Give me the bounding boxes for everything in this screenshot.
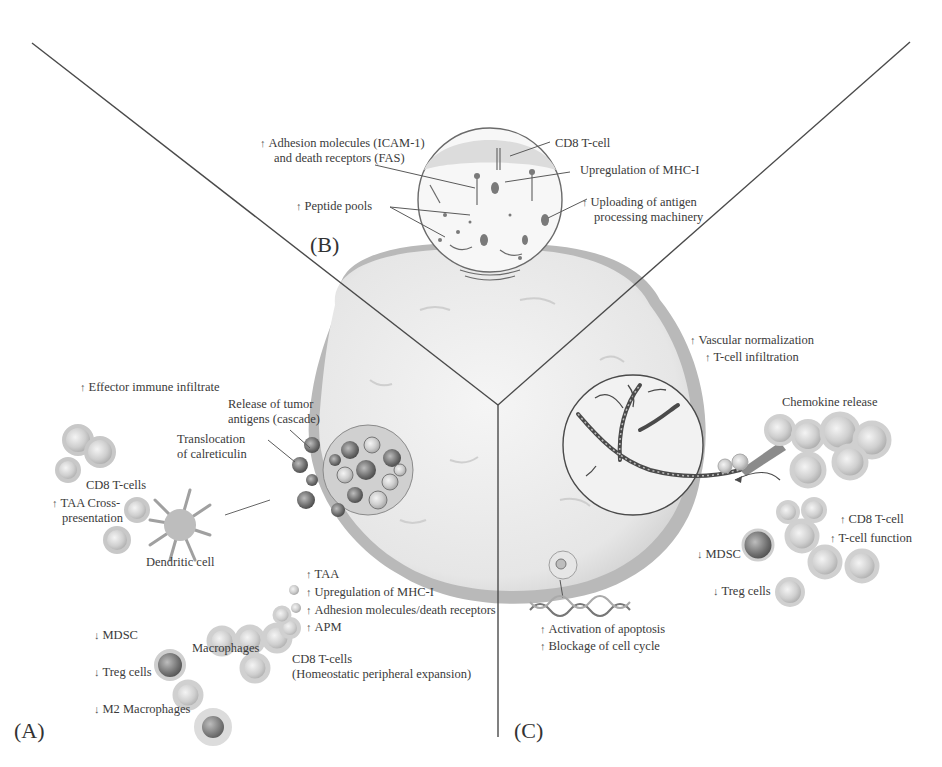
up-arrow-icon: ↑ [306, 585, 312, 600]
label-cd8-tcell-c: ↑CD8 T-cell [840, 512, 904, 527]
up-arrow-icon: ↑ [80, 380, 86, 395]
panel-label-b: (B) [310, 232, 339, 258]
label-taa-cross-presentation: ↑TAA Cross- presentation [52, 496, 123, 526]
label-dendritic-cell: Dendritic cell [146, 555, 214, 570]
up-arrow-icon: ↑ [830, 531, 836, 546]
panel-label-c: (C) [514, 718, 543, 744]
label-treg-c: ↓Treg cells [713, 584, 771, 599]
label-mdsc-c: ↓MDSC [697, 547, 741, 562]
label-tcell-infiltration: ↑T-cell infiltration [705, 350, 799, 365]
up-arrow-icon: ↑ [260, 136, 266, 151]
label-mhc-upregulation: Upregulation of MHC-I [580, 163, 699, 178]
label-peptide-pools: ↑Peptide pools [296, 199, 372, 214]
down-arrow-icon: ↓ [94, 628, 100, 643]
label-cd8-tcell: CD8 T-cell [555, 136, 610, 151]
label-vascular-normalization: ↑Vascular normalization [690, 333, 814, 348]
up-arrow-icon: ↑ [306, 620, 312, 635]
up-arrow-icon: ↑ [582, 195, 588, 210]
up-arrow-icon: ↑ [540, 639, 546, 654]
up-arrow-icon: ↑ [540, 622, 546, 637]
panel-label-a: (A) [14, 718, 45, 744]
down-arrow-icon: ↓ [94, 665, 100, 680]
tumor-cell-cluster [292, 425, 413, 517]
label-tcell-function: ↑T-cell function [830, 531, 912, 546]
down-arrow-icon: ↓ [94, 702, 100, 717]
up-arrow-icon: ↑ [52, 496, 58, 511]
label-mhc-upregulation-a: ↑Upregulation of MHC-I [306, 585, 434, 600]
magnified-vasculature [563, 375, 786, 515]
label-apm: ↑APM [306, 620, 342, 635]
figure-canvas: (B) (A) (C) ↑Adhesion molecules (ICAM-1)… [0, 0, 942, 767]
down-arrow-icon: ↓ [713, 584, 719, 599]
up-arrow-icon: ↑ [296, 199, 302, 214]
up-arrow-icon: ↑ [306, 567, 312, 582]
label-adhesion-death-receptors: ↑Adhesion molecules/death receptors [306, 603, 496, 618]
up-arrow-icon: ↑ [705, 350, 711, 365]
label-effector-infiltrate: ↑Effector immune infiltrate [80, 380, 219, 395]
panel-a-cells [57, 426, 301, 742]
label-m2-macrophages: ↓M2 Macrophages [94, 702, 190, 717]
label-treg-a: ↓Treg cells [94, 665, 152, 680]
down-arrow-icon: ↓ [697, 547, 703, 562]
label-cd8-tcells-a: CD8 T-cells [86, 478, 146, 493]
label-macrophages: Macrophages [192, 641, 259, 656]
label-release-tumor-antigens: Release of tumor antigens (cascade) [228, 397, 320, 427]
up-arrow-icon: ↑ [690, 333, 696, 348]
label-antigen-processing: ↑Uploading of antigen processing machine… [582, 195, 703, 225]
up-arrow-icon: ↑ [840, 512, 846, 527]
panel-c-cells [735, 414, 889, 605]
label-adhesion-icam: ↑Adhesion molecules (ICAM-1) and death r… [260, 136, 425, 166]
label-cd8-homeostatic: CD8 T-cells (Homeostatic peripheral expa… [292, 652, 471, 682]
label-chemokine-release: Chemokine release [782, 395, 877, 410]
label-activation-apoptosis: ↑Activation of apoptosis [540, 622, 665, 637]
label-translocation-calreticulin: Translocation of calreticulin [177, 432, 247, 462]
label-blockage-cell-cycle: ↑Blockage of cell cycle [540, 639, 660, 654]
up-arrow-icon: ↑ [306, 603, 312, 618]
label-mdsc-a: ↓MDSC [94, 628, 138, 643]
label-taa: ↑TAA [306, 567, 339, 582]
